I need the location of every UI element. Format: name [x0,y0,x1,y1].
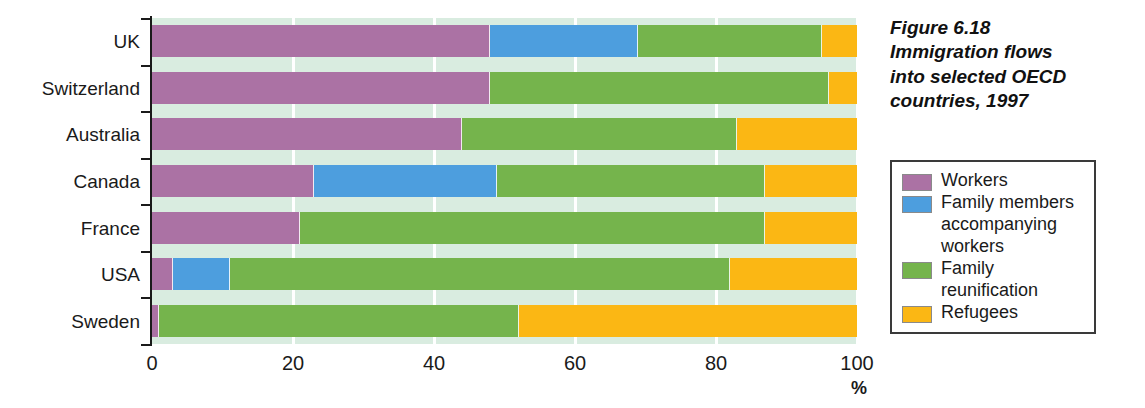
bar-segment-refugees[interactable] [822,25,857,57]
bar-segment-family-accompanying[interactable] [314,165,497,197]
legend-item-family-accompanying-line3: workers [902,236,1084,257]
bar-segment-refugees[interactable] [765,165,857,197]
y-axis-tick [141,204,151,206]
category-label-australia: Australia [66,125,140,144]
legend-label-workers: Workers [941,170,1008,191]
bar-segment-family-accompanying[interactable] [173,258,229,290]
legend-label-family-reunification: Family [941,258,994,279]
bar-segment-refugees[interactable] [737,118,857,150]
figure-immigration-flows: UKSwitzerlandAustraliaCanadaFranceUSASwe… [0,0,1145,408]
y-axis-tick [141,158,151,160]
y-axis-tick [141,251,151,253]
x-tick-label-20: 20 [282,352,304,375]
bar-segment-workers[interactable] [152,258,173,290]
category-label-sweden: Sweden [71,312,140,331]
x-tick-label-0: 0 [146,352,157,375]
y-axis-tick [141,111,151,113]
y-axis-tick [141,18,151,20]
legend-item-workers: Workers [902,170,1084,191]
category-label-usa: USA [101,265,140,284]
bar-canada[interactable] [152,165,857,197]
caption-line-3: into selected OECD [890,65,1130,89]
bar-sweden[interactable] [152,305,857,337]
x-tick-label-80: 80 [705,352,727,375]
caption-line-1: Figure 6.18 [890,16,1130,40]
bar-australia[interactable] [152,118,857,150]
legend-item-family-accompanying-line2: accompanying [902,214,1084,235]
bar-segment-refugees[interactable] [519,305,857,337]
bar-segment-family-accompanying[interactable] [490,25,638,57]
caption-line-4: countries, 1997 [890,89,1130,113]
bar-segment-workers[interactable] [152,25,490,57]
category-label-canada: Canada [73,172,140,191]
bar-segment-family-reunification[interactable] [638,25,821,57]
legend-item-family-accompanying: Family members [902,192,1084,213]
bar-usa[interactable] [152,258,857,290]
bar-segment-family-reunification[interactable] [230,258,731,290]
legend-item-family-reunification-line2: reunification [902,280,1084,301]
caption-line-2: Immigration flows [890,40,1130,64]
bar-segment-family-reunification[interactable] [490,72,828,104]
bar-segment-family-reunification[interactable] [497,165,765,197]
x-tick-label-60: 60 [564,352,586,375]
bar-segment-refugees[interactable] [730,258,857,290]
figure-caption: Figure 6.18 Immigration flows into selec… [890,16,1130,113]
legend-swatch-workers-icon [902,174,932,191]
bar-segment-family-reunification[interactable] [462,118,737,150]
chart-legend: Workers Family members accompanying work… [890,160,1096,334]
legend-swatch-family-reunification-icon [902,262,932,279]
legend-swatch-family-accompanying-icon [902,196,932,213]
bar-segment-workers[interactable] [152,305,159,337]
legend-label-family-reunification-line2: reunification [941,280,1038,301]
plot-area [152,18,857,344]
bar-segment-family-reunification[interactable] [159,305,519,337]
bar-segment-workers[interactable] [152,118,462,150]
bar-segment-workers[interactable] [152,165,314,197]
bar-segment-refugees[interactable] [765,212,857,244]
legend-label-family-accompanying-line3: workers [941,236,1004,257]
y-axis-tick [141,297,151,299]
bar-uk[interactable] [152,25,857,57]
legend-item-refugees: Refugees [902,302,1084,323]
bar-segment-family-reunification[interactable] [300,212,765,244]
category-label-france: France [81,219,140,238]
bar-switzerland[interactable] [152,72,857,104]
legend-label-family-accompanying: Family members [941,192,1074,213]
bar-segment-workers[interactable] [152,212,300,244]
y-axis-tick [141,344,151,346]
legend-swatch-refugees-icon [902,306,932,323]
bar-segment-workers[interactable] [152,72,490,104]
category-label-switzerland: Switzerland [42,79,140,98]
legend-label-family-accompanying-line2: accompanying [941,214,1057,235]
bar-segment-refugees[interactable] [829,72,857,104]
legend-label-refugees: Refugees [941,302,1018,323]
x-axis-unit-label: % [851,378,867,399]
category-label-uk: UK [114,32,140,51]
legend-item-family-reunification: Family [902,258,1084,279]
x-tick-label-40: 40 [423,352,445,375]
bar-france[interactable] [152,212,857,244]
y-axis-tick [141,65,151,67]
x-tick-label-100: 100 [840,352,873,375]
